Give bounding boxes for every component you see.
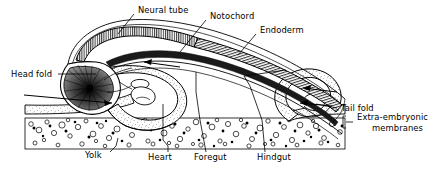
label-notochord: Notochord: [210, 11, 254, 21]
label-foregut: Foregut: [194, 152, 227, 162]
label-heart: Heart: [148, 152, 172, 162]
label-extra-embryonic-line2: membranes: [372, 123, 423, 133]
label-endoderm: Endoderm: [260, 25, 304, 35]
label-hindgut: Hindgut: [257, 152, 291, 162]
foregut-arrow: [144, 59, 180, 67]
label-neural-tube: Neural tube: [138, 5, 188, 15]
yolk-region: [25, 118, 345, 149]
label-head-fold: Head fold: [11, 69, 52, 79]
embryo-diagram-figure: Neural tube Notochord Endoderm Head fold…: [0, 0, 435, 172]
label-yolk: Yolk: [84, 150, 102, 160]
diagram-canvas: Neural tube Notochord Endoderm Head fold…: [0, 0, 435, 172]
label-extra-embryonic-line1: Extra-embryonic: [357, 112, 428, 122]
heart-structures: [131, 79, 155, 104]
